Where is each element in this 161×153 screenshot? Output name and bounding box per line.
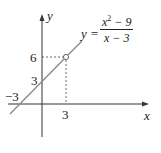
hole-marker <box>63 54 68 59</box>
x-tick-3: 3 <box>62 108 69 121</box>
numerator-rest: − 9 <box>111 15 131 29</box>
y-axis-arrow-icon <box>40 14 45 21</box>
y-tick-3: 3 <box>31 74 38 87</box>
y-tick-6: 6 <box>30 51 37 64</box>
x-axis-arrow-icon <box>142 102 149 107</box>
fraction-numerator: x2 − 9 <box>100 15 133 30</box>
y-axis-label: y <box>47 9 53 22</box>
function-lhs: y = <box>81 27 99 40</box>
x-intercept-label: −3 <box>5 90 19 103</box>
function-fraction: x2 − 9 x − 3 <box>100 15 133 44</box>
x-axis-label: x <box>144 109 150 122</box>
graph-canvas <box>0 0 161 153</box>
function-line-upper <box>68 41 82 55</box>
fraction-denominator: x − 3 <box>104 30 129 44</box>
